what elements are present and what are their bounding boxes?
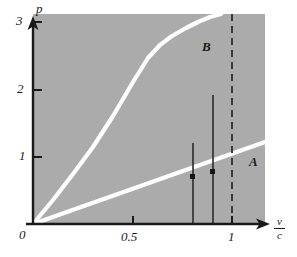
curve-label-b: B — [202, 40, 211, 53]
curve-label-a: A — [249, 155, 258, 168]
x-axis-label-denominator: c — [277, 230, 282, 241]
momentum-vs-velocity-figure: p 3 2 1 0 0.5 1 v c B A — [0, 0, 297, 257]
plot-canvas — [0, 0, 297, 257]
plot-area-texture — [33, 14, 265, 224]
x-axis-label-numerator: v — [277, 216, 282, 227]
y-tick-label-2: 2 — [17, 82, 24, 95]
y-tick-label-3: 3 — [16, 14, 23, 27]
y-tick-label-1: 1 — [19, 149, 26, 162]
data-point-1 — [190, 174, 195, 179]
x-tick-label-1: 1 — [228, 230, 235, 243]
origin-label: 0 — [19, 228, 26, 241]
x-axis-label: v c — [274, 216, 285, 241]
x-tick-label-0-5: 0.5 — [121, 230, 137, 243]
y-axis-label: p — [36, 2, 43, 15]
data-point-2 — [210, 169, 215, 174]
